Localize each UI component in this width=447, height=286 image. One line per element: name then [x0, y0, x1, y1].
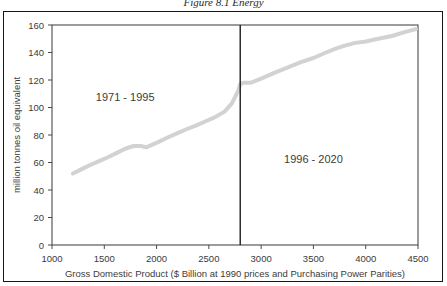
y-tick-label: 100: [28, 102, 44, 113]
x-tick-label: 4000: [355, 253, 376, 264]
y-tick-label: 60: [33, 157, 44, 168]
y-tick-label: 160: [28, 20, 44, 31]
y-tick-label: 20: [33, 212, 44, 223]
chart-canvas: 1000150020002500300035004000450002040608…: [0, 0, 447, 286]
x-axis-label: Gross Domestic Product ($ Billion at 199…: [65, 268, 405, 279]
x-tick-label: 3000: [251, 253, 272, 264]
period-label-historical: 1971 - 1995: [96, 91, 155, 103]
x-tick-label: 2500: [198, 253, 219, 264]
figure-container: Figure 8.1 Energy 1000150020002500300035…: [0, 0, 447, 286]
y-axis-label: million tonnes oil equivalent: [11, 77, 22, 194]
y-tick-label: 0: [39, 240, 44, 251]
plot-frame: [52, 25, 418, 245]
x-tick-label: 2000: [146, 253, 167, 264]
x-tick-label: 1000: [41, 253, 62, 264]
period-label-projection: 1996 - 2020: [284, 153, 343, 165]
y-tick-label: 80: [33, 130, 44, 141]
x-tick-label: 4500: [407, 253, 428, 264]
y-tick-label: 140: [28, 47, 44, 58]
x-tick-label: 3500: [303, 253, 324, 264]
y-tick-label: 120: [28, 75, 44, 86]
x-tick-label: 1500: [94, 253, 115, 264]
y-tick-label: 40: [33, 185, 44, 196]
